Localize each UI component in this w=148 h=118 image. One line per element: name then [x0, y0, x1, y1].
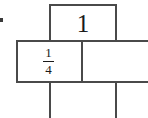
fraction-numerator: 1	[43, 46, 54, 60]
whole-value-label: 1	[49, 4, 117, 42]
left-edge-tick-mark	[0, 18, 3, 22]
lower-divider-left	[49, 81, 51, 118]
fraction: 1 4	[43, 46, 54, 76]
lower-divider-right	[115, 81, 117, 118]
parts-band-divider	[81, 41, 83, 82]
fraction-value-label: 1 4	[16, 41, 81, 82]
fraction-bar-diagram: 1 1 4	[0, 0, 148, 118]
fraction-denominator: 4	[43, 63, 54, 77]
